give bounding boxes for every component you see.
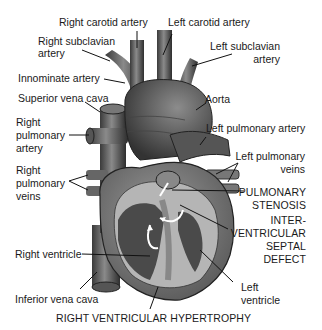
label-inferior-vena-cava: Inferior vena cava	[15, 293, 98, 305]
label-pulmonary-stenosis-1: PULMONARY	[220, 186, 306, 198]
label-right-ventricle: Right ventricle	[15, 248, 82, 260]
label-left-carotid-artery: Left carotid artery	[168, 16, 250, 28]
label-right-carotid-artery: Right carotid artery	[59, 16, 148, 28]
label-right-subclavian-artery-1: Right subclavian	[38, 35, 115, 47]
label-right-pulmonary-veins-3: veins	[16, 190, 41, 202]
label-vsd-4: DEFECT	[220, 253, 306, 265]
label-left-subclavian-artery-2: artery	[205, 53, 280, 65]
label-pulmonary-stenosis-2: STENOSIS	[220, 199, 306, 211]
label-vsd-1: INTER-	[220, 214, 306, 226]
right-pulmonary-artery-shape	[86, 128, 128, 144]
label-left-pulmonary-artery: Left pulmonary artery	[206, 122, 305, 134]
label-vsd-3: SEPTAL	[220, 240, 306, 252]
label-right-pulmonary-artery-1: Right	[16, 116, 41, 128]
label-vsd-2: VENTRICULAR	[220, 227, 306, 239]
label-right-pulmonary-veins-2: pulmonary	[16, 177, 65, 189]
label-left-ventricle-2: ventricle	[241, 294, 280, 306]
label-right-pulmonary-veins-1: Right	[16, 164, 41, 176]
label-right-pulmonary-artery-3: artery	[16, 142, 43, 154]
pulmonary-valve	[156, 171, 180, 189]
label-aorta: Aorta	[205, 93, 230, 105]
label-right-subclavian-artery-2: artery	[38, 47, 65, 59]
label-left-subclavian-artery-1: Left subclavian	[205, 40, 280, 52]
diagram-title: RIGHT VENTRICULAR HYPERTROPHY	[56, 312, 251, 324]
label-left-pulmonary-veins-1: Left pulmonary	[210, 150, 305, 162]
label-left-pulmonary-veins-2: veins	[210, 163, 305, 175]
label-left-ventricle-1: Left	[241, 281, 259, 293]
label-superior-vena-cava: Superior vena cava	[18, 92, 108, 104]
label-right-pulmonary-artery-2: pulmonary	[16, 129, 65, 141]
label-innominate-artery: Innominate artery	[18, 72, 100, 84]
